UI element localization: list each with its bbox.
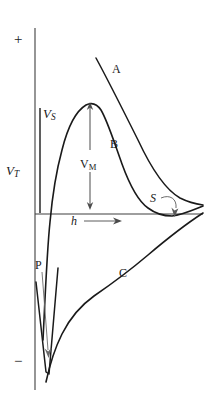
vm-label-symbol: V [80, 157, 89, 171]
axis-negative-sign: − [14, 354, 22, 369]
y-axis-label: VT [6, 164, 19, 179]
curve-b-path [43, 104, 203, 340]
curve-a-path [96, 58, 203, 205]
vm-label-subscript: M [89, 162, 97, 172]
h-axis-arrow [84, 218, 122, 225]
axis-positive-sign: + [14, 32, 22, 47]
vm-double-arrow [87, 102, 93, 210]
plot-canvas [0, 0, 204, 397]
curve-p-well-path [36, 268, 58, 374]
y-axis-label-subscript: T [14, 169, 19, 179]
vm-label: VM [80, 158, 96, 172]
interaction-energy-figure: + − VT VS VM A B C P S h [0, 0, 204, 397]
vs-label-symbol: V [43, 106, 51, 121]
curve-c-label: C [119, 267, 127, 279]
curve-b-label: B [110, 138, 118, 150]
vs-label-subscript: S [51, 112, 56, 122]
curve-a-label: A [112, 63, 121, 75]
s-label: S [150, 192, 156, 204]
vs-label: VS [43, 107, 56, 122]
p-label: P [35, 259, 42, 271]
curve-c-path [46, 213, 203, 382]
y-axis-label-symbol: V [6, 163, 14, 178]
x-axis-label: h [71, 215, 77, 227]
